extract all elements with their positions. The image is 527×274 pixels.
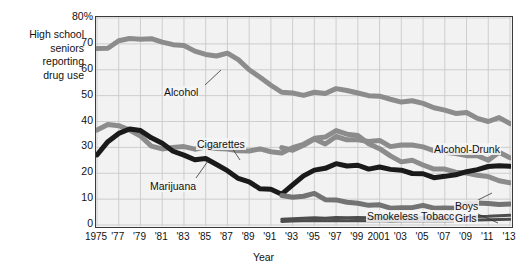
x-tick-1985: '85 (198, 231, 211, 242)
x-tick-1999: '99 (350, 231, 363, 242)
x-tick-1989: '89 (242, 231, 255, 242)
x-tick-2011: '11 (481, 231, 493, 242)
x-tick-1977: '77 (111, 231, 124, 242)
x-tick-1995: '95 (307, 231, 320, 242)
x-tick-1997: '97 (329, 231, 342, 242)
x-tick-2003: '03 (394, 231, 407, 242)
x-tick-1991: '91 (263, 231, 276, 242)
series-label-alcohol: Alcohol (163, 86, 199, 98)
x-tick-1979: '79 (133, 231, 146, 242)
series-label-boys: Boys (454, 200, 479, 212)
series-label-girls: Girls (454, 212, 478, 224)
x-tick-1983: '83 (176, 231, 189, 242)
chart-figure: High school seniors reporting drug use 0… (0, 0, 527, 274)
series-label-alcohol-drunk: Alcohol-Drunk (433, 143, 501, 155)
series-label-smokeless-tobacco: Smokeless Tobacco (366, 210, 461, 222)
x-tick-2005: '05 (416, 231, 429, 242)
x-tick-2001: 2001 (367, 231, 389, 242)
x-tick-2013: '13 (502, 231, 515, 242)
series-label-cigarettes: Cigarettes (196, 138, 246, 150)
x-tick-2009: '09 (459, 231, 472, 242)
series-label-marijuana: Marijuana (149, 180, 197, 192)
x-axis-ticks: 1975'77'79'81'83'85'87'89'91'93'95'97'99… (0, 0, 527, 274)
x-tick-1975: 1975 (85, 231, 107, 242)
x-tick-1993: '93 (285, 231, 298, 242)
x-tick-1981: '81 (155, 231, 168, 242)
x-tick-2007: '07 (437, 231, 450, 242)
x-tick-1987: '87 (220, 231, 233, 242)
x-axis-title: Year (0, 251, 527, 263)
